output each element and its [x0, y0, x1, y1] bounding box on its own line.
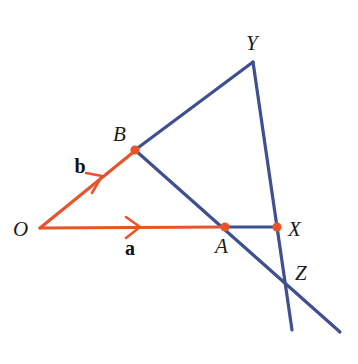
- blue-lines-group: [135, 62, 340, 332]
- vector-diagram-figure: O B A X Y Z a b: [0, 0, 358, 364]
- vector-b-shaft: [40, 150, 136, 228]
- point-dots-group: [130, 145, 281, 231]
- label-point-B: B: [113, 122, 126, 146]
- segment-B-Y: [135, 62, 253, 150]
- point-dot-X: [272, 222, 281, 231]
- label-point-Z: Z: [295, 261, 307, 285]
- point-labels-group: O B A X Y Z: [13, 31, 307, 285]
- label-point-X: X: [287, 217, 302, 241]
- label-point-Y: Y: [246, 31, 260, 55]
- vector-a-shaft: [40, 227, 226, 228]
- label-vector-b: b: [74, 155, 85, 177]
- segment-B-through-A-to-Z-extension: [135, 150, 340, 332]
- vector-labels-group: a b: [74, 155, 135, 259]
- label-point-O: O: [13, 217, 28, 241]
- segment-Y-through-X-to-Z-extension: [253, 62, 292, 330]
- diagram-canvas: O B A X Y Z a b: [0, 0, 358, 364]
- label-vector-a: a: [125, 237, 135, 259]
- point-dot-A: [220, 222, 229, 231]
- orange-vectors-group: [40, 150, 226, 238]
- label-point-A: A: [213, 234, 228, 258]
- point-dot-B: [130, 145, 139, 154]
